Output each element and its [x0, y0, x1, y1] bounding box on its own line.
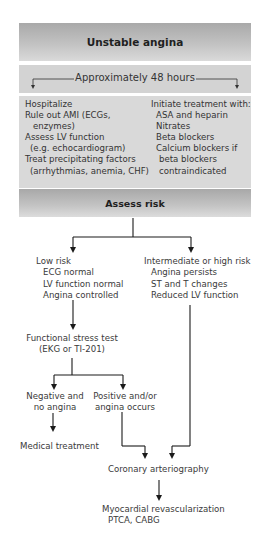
revascularization-line2: PTCA, CABG [102, 515, 225, 526]
negative-line1: Negative and [26, 391, 84, 402]
arrow-down-icon [169, 453, 175, 459]
revascularization-line1: Myocardial revascularization [102, 504, 225, 515]
low-risk-item: LV function normal [36, 279, 123, 290]
stress-test-line2: (EKG or TI-201) [24, 344, 120, 355]
medical-treatment: Medical treatment [20, 441, 99, 452]
positive-line1: Positive and/or [92, 391, 158, 402]
arrow-down-icon [156, 495, 162, 501]
arrow-down-icon [50, 426, 56, 432]
low-risk-item: ECG normal [36, 267, 123, 278]
negative-line2: no angina [26, 402, 84, 413]
high-risk-block: Intermediate or high risk Angina persist… [144, 256, 251, 301]
high-risk-heading: Intermediate or high risk [144, 256, 251, 267]
low-risk-item: Angina controlled [36, 290, 123, 301]
stress-test-block: Functional stress test (EKG or TI-201) [24, 333, 120, 356]
coronary-arteriography: Coronary arteriography [108, 464, 209, 475]
high-risk-item: Angina persists [144, 267, 251, 278]
high-risk-item: Reduced LV function [144, 290, 251, 301]
arrow-down-icon [142, 453, 148, 459]
low-risk-heading: Low risk [36, 256, 123, 267]
positive-line2: angina occurs [92, 402, 158, 413]
high-risk-item: ST and T changes [144, 279, 251, 290]
arrow-down-icon [51, 384, 57, 390]
arrow-down-icon [70, 247, 76, 253]
negative-result-block: Negative and no angina [26, 391, 84, 414]
positive-result-block: Positive and/or angina occurs [92, 391, 158, 414]
low-risk-block: Low risk ECG normal LV function normal A… [36, 256, 123, 301]
arrow-down-icon [120, 384, 126, 390]
arrow-down-icon [188, 247, 194, 253]
revascularization-block: Myocardial revascularization PTCA, CABG [102, 504, 225, 527]
arrow-down-icon [70, 324, 76, 330]
stress-test-line1: Functional stress test [24, 333, 120, 344]
